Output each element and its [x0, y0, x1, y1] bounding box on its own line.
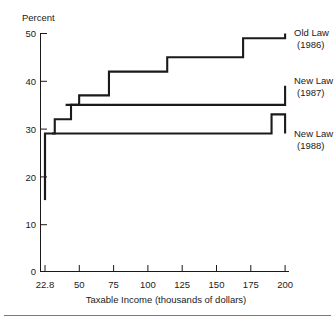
series-line-new-law-1988 — [52, 114, 285, 133]
y-tick-label-0: 0 — [31, 266, 36, 277]
footer-divider — [4, 315, 331, 316]
legend: Old Law (1986) New Law (1987) New Law (1… — [294, 27, 333, 151]
legend-label-new-law-1988-line1: New Law — [294, 128, 333, 139]
x-axis-ticks — [45, 265, 285, 272]
series-line-old-law-1986-steps — [45, 34, 285, 201]
tax-rate-step-chart: 50 40 30 20 10 0 22.8 50 75 100 125 150 … — [0, 0, 335, 330]
y-axis-title: Percent — [22, 12, 55, 23]
chart-axes — [41, 33, 290, 272]
y-tick-label-10: 10 — [25, 219, 36, 230]
y-tick-label-40: 40 — [25, 76, 36, 87]
legend-label-new-law-1987-line1: New Law — [294, 75, 333, 86]
y-tick-label-30: 30 — [25, 124, 36, 135]
y-tick-labels: 50 40 30 20 10 0 — [25, 28, 36, 277]
legend-label-old-law-1986-line1: Old Law — [294, 27, 329, 38]
x-tick-label-125: 125 — [174, 279, 190, 290]
x-axis-title: Taxable Income (thousands of dollars) — [86, 294, 247, 305]
legend-label-new-law-1987-line2: (1987) — [297, 87, 324, 98]
y-tick-label-20: 20 — [25, 172, 36, 183]
legend-label-old-law-1986-line2: (1986) — [297, 39, 324, 50]
y-tick-label-50: 50 — [25, 28, 36, 39]
chart-canvas: 50 40 30 20 10 0 22.8 50 75 100 125 150 … — [0, 0, 335, 330]
x-tick-label-50: 50 — [74, 279, 85, 290]
x-tick-label-200: 200 — [277, 279, 293, 290]
legend-label-new-law-1988-line2: (1988) — [297, 140, 324, 151]
x-tick-label-75: 75 — [108, 279, 119, 290]
x-tick-label-100: 100 — [140, 279, 156, 290]
x-tick-label-22-8: 22.8 — [36, 279, 55, 290]
x-tick-label-175: 175 — [243, 279, 259, 290]
x-tick-label-150: 150 — [209, 279, 225, 290]
x-tick-labels: 22.8 50 75 100 125 150 175 200 — [36, 279, 293, 290]
